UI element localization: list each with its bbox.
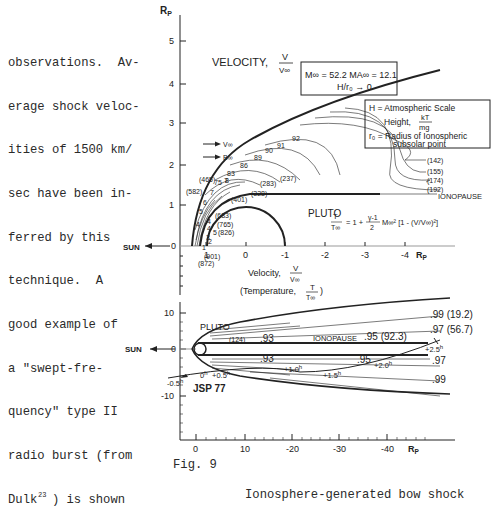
svg-text:.93: .93 bbox=[260, 333, 274, 344]
svg-text:2: 2 bbox=[370, 224, 374, 231]
svg-text:(237): (237) bbox=[280, 175, 296, 183]
svg-text:M∞ = 52.2 MA∞ = 12.1: M∞ = 52.2 MA∞ = 12.1 bbox=[305, 70, 397, 80]
trajectory-label: JSP 77 bbox=[193, 383, 226, 394]
svg-text:.93: .93 bbox=[260, 353, 274, 364]
x-axis-label: Velocity, bbox=[248, 268, 281, 278]
svg-text:1: 1 bbox=[204, 250, 209, 260]
ionopause-label-bottom: IONOPAUSE bbox=[313, 334, 357, 343]
sun-label-top: SUN bbox=[123, 243, 140, 252]
svg-text:(155): (155) bbox=[427, 168, 443, 176]
svg-text:V∞: V∞ bbox=[279, 66, 290, 75]
svg-text:(401): (401) bbox=[231, 196, 247, 204]
svg-text:γ-1: γ-1 bbox=[368, 214, 378, 222]
svg-text:-3: -3 bbox=[361, 250, 369, 260]
caption-line: Ionosphere-generated bow shock bbox=[245, 488, 472, 503]
svg-text:.97 (56.7): .97 (56.7) bbox=[430, 324, 473, 335]
svg-text:-10: -10 bbox=[161, 391, 174, 401]
svg-text:.99 (19.2): .99 (19.2) bbox=[430, 309, 473, 320]
svg-text:5: 5 bbox=[199, 208, 203, 215]
svg-text:+1.5h: +1.5h bbox=[323, 370, 341, 380]
svg-text:-2: -2 bbox=[321, 250, 329, 260]
svg-text:RP: RP bbox=[416, 250, 428, 261]
svg-text:.97: .97 bbox=[432, 355, 446, 366]
y-axis-label-top: RP bbox=[160, 5, 172, 17]
svg-text:0: 0 bbox=[243, 250, 248, 260]
svg-text:4: 4 bbox=[196, 221, 200, 228]
chart-title: VELOCITY, bbox=[212, 56, 268, 68]
svg-text:0: 0 bbox=[171, 344, 176, 354]
svg-text:RP: RP bbox=[408, 444, 420, 455]
svg-text:subsolar point: subsolar point bbox=[393, 139, 447, 149]
svg-text:M∞² [1 - (V/V∞)²]: M∞² [1 - (V/V∞)²] bbox=[382, 218, 438, 227]
svg-text:(142): (142) bbox=[427, 157, 443, 165]
pluto-label-bottom: PLUTO bbox=[200, 322, 230, 332]
svg-text:(683): (683) bbox=[215, 212, 231, 220]
svg-text:90: 90 bbox=[265, 147, 273, 154]
svg-text:(283): (283) bbox=[260, 180, 276, 188]
svg-text:Height,: Height, bbox=[384, 117, 411, 127]
svg-text:kT: kT bbox=[421, 113, 430, 122]
svg-text:4: 4 bbox=[169, 79, 174, 89]
svg-text:.99: .99 bbox=[432, 374, 446, 385]
svg-text:5: 5 bbox=[169, 36, 174, 46]
svg-text:H/r₀ → 0: H/r₀ → 0 bbox=[337, 82, 372, 92]
svg-text:(328): (328) bbox=[251, 190, 267, 198]
svg-text:91: 91 bbox=[277, 142, 285, 149]
svg-text:.95 (92.3): .95 (92.3) bbox=[364, 331, 407, 342]
sun-label-bottom: SUN bbox=[125, 345, 142, 354]
svg-text:0: 0 bbox=[193, 444, 198, 454]
figure-svg: RP 5 4 3 2 1 0 SUN VELOCITY, V V∞ M∞ = 5… bbox=[0, 0, 493, 528]
svg-text:83: 83 bbox=[227, 170, 235, 177]
svg-text:IONOPAUSE: IONOPAUSE bbox=[438, 192, 482, 201]
svg-text:(582): (582) bbox=[186, 188, 202, 196]
svg-text:+2.5h: +2.5h bbox=[425, 344, 443, 354]
svg-text:(174): (174) bbox=[427, 177, 443, 185]
svg-text:V: V bbox=[293, 264, 299, 273]
svg-text:V∞: V∞ bbox=[290, 276, 300, 283]
svg-text:0h: 0h bbox=[200, 370, 208, 380]
figure-label: Fig. 9 bbox=[173, 458, 217, 473]
svg-text:+2.0h: +2.0h bbox=[374, 360, 392, 370]
svg-text:V: V bbox=[282, 52, 288, 62]
svg-text:8: 8 bbox=[225, 177, 229, 184]
svg-text:T: T bbox=[333, 212, 338, 221]
svg-text:V∞: V∞ bbox=[223, 141, 233, 148]
svg-text:(Temperature,: (Temperature, bbox=[240, 286, 296, 296]
svg-text:-20: -20 bbox=[286, 444, 299, 454]
svg-text:(765): (765) bbox=[217, 221, 233, 229]
svg-text:(465): (465) bbox=[199, 176, 215, 184]
svg-text:6: 6 bbox=[203, 199, 207, 206]
svg-text:+1.0h: +1.0h bbox=[284, 364, 302, 374]
svg-text:T: T bbox=[310, 283, 315, 292]
svg-text:-4: -4 bbox=[401, 250, 409, 260]
svg-text:4: 4 bbox=[207, 225, 211, 232]
caption-body: Ionosphere-generated bow shock and norma… bbox=[245, 458, 472, 528]
svg-text:-30: -30 bbox=[333, 444, 346, 454]
svg-text:= 1 +: = 1 + bbox=[346, 218, 364, 227]
svg-text:3: 3 bbox=[169, 118, 174, 128]
svg-text:-0.5h: -0.5h bbox=[167, 378, 183, 388]
svg-text:1: 1 bbox=[169, 200, 174, 210]
svg-text:5: 5 bbox=[213, 229, 217, 236]
svg-text:+0.5h: +0.5h bbox=[212, 370, 230, 380]
figure-9: RP 5 4 3 2 1 0 SUN VELOCITY, V V∞ M∞ = 5… bbox=[0, 0, 493, 528]
svg-text:T∞: T∞ bbox=[306, 294, 315, 301]
svg-text:T∞: T∞ bbox=[331, 224, 340, 231]
svg-text:-40: -40 bbox=[381, 444, 394, 454]
svg-text:10: 10 bbox=[164, 308, 174, 318]
svg-text:H = Atmospheric Scale: H = Atmospheric Scale bbox=[369, 103, 455, 113]
svg-text:.95: .95 bbox=[357, 354, 371, 365]
svg-text:2: 2 bbox=[208, 238, 212, 245]
svg-text:2: 2 bbox=[169, 160, 174, 170]
svg-text:89: 89 bbox=[254, 154, 262, 161]
svg-text:0: 0 bbox=[171, 241, 176, 251]
svg-text:(124): (124) bbox=[229, 336, 245, 344]
svg-text:-1: -1 bbox=[281, 250, 289, 260]
svg-text:92: 92 bbox=[292, 135, 300, 142]
svg-text:86: 86 bbox=[240, 162, 248, 169]
svg-text:7: 7 bbox=[210, 189, 214, 196]
svg-text:B∞: B∞ bbox=[223, 154, 233, 161]
svg-text:(826): (826) bbox=[218, 229, 234, 237]
svg-text:(872): (872) bbox=[198, 260, 214, 268]
svg-text:): ) bbox=[320, 286, 323, 296]
